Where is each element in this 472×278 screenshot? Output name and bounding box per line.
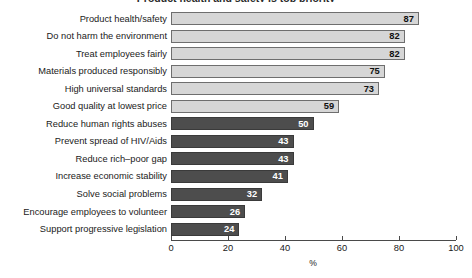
- bar-row: Treat employees fairly82: [0, 47, 472, 60]
- bar-row: Good quality at lowest price59: [0, 100, 472, 113]
- category-label: Reduce human rights abuses: [46, 118, 171, 129]
- category-label: Increase economic stability: [55, 171, 171, 182]
- category-label: Prevent spread of HIV/Aids: [55, 136, 171, 147]
- x-axis-tick-label: 0: [168, 243, 173, 254]
- category-label: Reduce rich–poor gap: [76, 153, 171, 164]
- bar-value-label: 73: [364, 83, 374, 94]
- bar-row: Increase economic stability41: [0, 170, 472, 183]
- bar-row: Product health/safety87: [0, 12, 472, 25]
- bar-value-label: 82: [389, 48, 399, 59]
- bar-value-label: 43: [278, 136, 288, 147]
- bar: 87: [171, 12, 419, 25]
- bar-row: Encourage employees to volunteer26: [0, 205, 472, 218]
- bar-value-label: 87: [404, 13, 414, 24]
- category-label: Materials produced responsibly: [38, 66, 171, 77]
- bar: 59: [171, 100, 339, 113]
- bar-row: Do not harm the environment82: [0, 30, 472, 43]
- category-label: Treat employees fairly: [76, 48, 171, 59]
- category-label: Product health/safety: [80, 13, 171, 24]
- bar-value-label: 32: [247, 189, 257, 200]
- bar-value-label: 26: [230, 206, 240, 217]
- bar-value-label: 24: [224, 224, 234, 235]
- bar: 82: [171, 47, 405, 60]
- bar-row: Prevent spread of HIV/Aids43: [0, 135, 472, 148]
- bar-row: Materials produced responsibly75: [0, 65, 472, 78]
- bar: 26: [171, 205, 245, 218]
- x-axis-tick: [285, 236, 286, 240]
- x-axis-tick-label: 60: [337, 243, 347, 254]
- bar: 73: [171, 82, 379, 95]
- x-axis-tick-label: 80: [394, 243, 404, 254]
- bar-value-label: 41: [273, 171, 283, 182]
- bar-value-label: 75: [369, 66, 379, 77]
- bar-row: Solve social problems32: [0, 188, 472, 201]
- bar: 24: [171, 223, 239, 236]
- bar: 82: [171, 30, 405, 43]
- x-axis-tick-label: 100: [448, 243, 464, 254]
- bar: 75: [171, 65, 385, 78]
- category-label: Good quality at lowest price: [53, 101, 171, 112]
- x-axis-title: %: [309, 258, 317, 268]
- bar-row: Support progressive legislation24: [0, 223, 472, 236]
- bar: 41: [171, 170, 288, 183]
- x-axis-tick: [228, 236, 229, 240]
- bar-row: Reduce rich–poor gap43: [0, 152, 472, 165]
- x-axis-tick-label: 40: [280, 243, 290, 254]
- bar: 43: [171, 135, 294, 148]
- bar-value-label: 50: [298, 118, 308, 129]
- category-label: Encourage employees to volunteer: [23, 206, 171, 217]
- x-axis-tick: [456, 236, 457, 240]
- x-axis-line: [171, 240, 456, 241]
- x-axis-tick: [342, 236, 343, 240]
- bar-value-label: 82: [389, 31, 399, 42]
- plot-area: Product health/safety87Do not harm the e…: [0, 0, 472, 278]
- bar-value-label: 43: [278, 153, 288, 164]
- category-label: Support progressive legislation: [40, 224, 171, 235]
- bar-value-label: 59: [324, 101, 334, 112]
- x-axis-tick: [171, 236, 172, 240]
- bar: 32: [171, 188, 262, 201]
- bar-row: High universal standards73: [0, 82, 472, 95]
- bar: 43: [171, 152, 294, 165]
- x-axis-tick: [399, 236, 400, 240]
- category-label: High universal standards: [65, 83, 171, 94]
- bar-row: Reduce human rights abuses50: [0, 117, 472, 130]
- category-label: Solve social problems: [77, 189, 171, 200]
- x-axis-tick-label: 20: [223, 243, 233, 254]
- bar-chart: Product health and safety is top priorit…: [0, 0, 472, 278]
- bar: 50: [171, 117, 314, 130]
- category-label: Do not harm the environment: [47, 31, 171, 42]
